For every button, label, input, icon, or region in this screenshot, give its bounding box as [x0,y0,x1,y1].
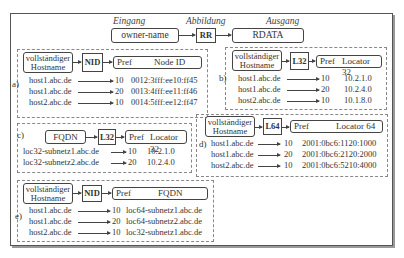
section-tag-e: e) [15,211,22,221]
source-box-c: FQDN [45,130,86,144]
arrow-icon [258,144,280,145]
arrow-icon [78,92,113,93]
pref-value: 10 [321,74,330,83]
section-tag-a: a) [12,79,19,89]
record-value: loc64-subnetz2.abc.de [126,217,202,226]
record-value: 2001:0bc6:1120:1000 [302,139,376,148]
pref-value: 10 [112,206,121,215]
record-name: host1.abc.de [238,85,281,94]
mapping-row: host1.abc.de [29,87,72,96]
pref-value: 20 [115,87,124,96]
arrow-icon [73,193,81,194]
record-value: 10.2.4.0 [147,158,175,167]
pref-value: 10 [321,96,330,105]
record-name: host1.abc.de [238,74,281,83]
arrow-icon [111,163,126,164]
record-name: host2.abc.de [29,228,72,237]
record-value: 2001:0bc6:2120:2000 [302,150,377,159]
section-tag-d: d) [199,139,207,149]
record-value: loc32-subnetz1.abc.de [126,228,202,237]
source-line-2: Hostname [24,194,72,203]
rdata-field-d: Pref Locator 64 [290,120,383,133]
arrow-icon [86,137,97,138]
source-line-2: Hostname [206,127,254,136]
arrow-icon [102,193,111,194]
pref-value: 20 [321,85,330,94]
pref-label: Pref [294,121,309,131]
record-value: 2001:0bc6:5210:4000 [302,161,377,170]
rr-type-a: NID [82,53,103,72]
record-name: loc32-subnetz2.abc.de [23,158,99,167]
field-label: Locator 64 [336,121,375,132]
pref-label: Pref [116,188,131,198]
field-label: FQDN [158,188,183,199]
record-value: 10.2.4.0 [344,85,372,94]
arrow-icon [78,222,110,223]
record-value: 10.1.8.0 [344,96,372,105]
pref-value: 10 [115,98,124,107]
rr-type-c: L32 [98,129,116,145]
record-name: host2.abc.de [238,96,281,105]
record-name: host1.abc.de [211,139,254,148]
pref-value: 10 [112,228,121,237]
record-value: 0012:3fff:ee10:ff45 [131,76,198,85]
input-heading: Eingang [113,16,145,26]
pref-value: 20 [112,217,121,226]
record-value: 10.2.1.0 [344,74,372,83]
output-heading: Ausgang [266,16,299,26]
record-name: loc32-subnetz1.abc.de [23,147,99,156]
arrow-icon [282,127,289,128]
source-box-d: vollständiger Hostname [205,116,255,137]
rdata-field-c: Pref Locator 32 [125,130,187,144]
arrow-icon [282,61,289,62]
section-tag-c: c) [17,130,24,140]
arrow-icon [179,35,195,36]
arrow-icon [78,211,110,212]
section-tag-b: b) [219,73,227,83]
arrow-icon [103,62,112,63]
record-name: host1.abc.de [29,217,72,226]
arrow-icon [111,152,126,153]
arrow-icon [78,103,113,104]
mapping-row: host2.abc.de [29,98,72,107]
record-value: loc64-subnetz1.abc.de [126,206,202,215]
pref-value: 20 [128,158,137,167]
record-name: host2.abc.de [211,161,254,170]
source-box-a: vollständiger Hostname [23,52,73,73]
pref-label: Pref [129,132,144,142]
rdata-field-a: Pref Node ID [113,56,202,69]
record-value: 10.2.1.0 [147,147,175,156]
rr-type-d: L64 [263,118,282,135]
arrow-icon [258,155,280,156]
pref-value: 10 [128,147,137,156]
rr-type-b: L32 [290,52,309,70]
arrow-icon [258,166,280,167]
pref-label: Pref [117,57,132,67]
record-value: 0013:4fff:ee11:ff46 [131,87,197,96]
rr-box: RR [196,28,216,43]
source-box-b: vollständiger Hostname [232,50,282,71]
arrow-icon [255,127,262,128]
source-box-e: vollständiger Hostname [23,183,73,204]
arrow-icon [78,81,113,82]
arrow-icon [287,79,319,80]
pref-value: 10 [115,76,124,85]
mapping-row: host1.abc.de [29,76,72,85]
arrow-icon [78,233,110,234]
arrow-icon [73,62,81,63]
owner-name-box: owner-name [111,28,179,43]
rdata-field-b: Pref Locator 32 [316,55,382,68]
rr-type-e: NID [82,185,102,202]
arrow-icon [287,90,319,91]
mapping-heading: Abbildung [186,16,226,26]
rdata-box: RDATA [232,28,304,43]
pref-value: 10 [284,161,293,170]
arrow-icon [216,35,231,36]
pref-value: 10 [284,139,293,148]
source-line-2: Hostname [233,61,281,70]
pref-label: Pref [320,56,335,66]
rdata-field-e: Pref FQDN [112,187,208,200]
arrow-icon [116,137,124,138]
source-line-2: Hostname [24,63,72,72]
record-name: host1.abc.de [29,206,72,215]
